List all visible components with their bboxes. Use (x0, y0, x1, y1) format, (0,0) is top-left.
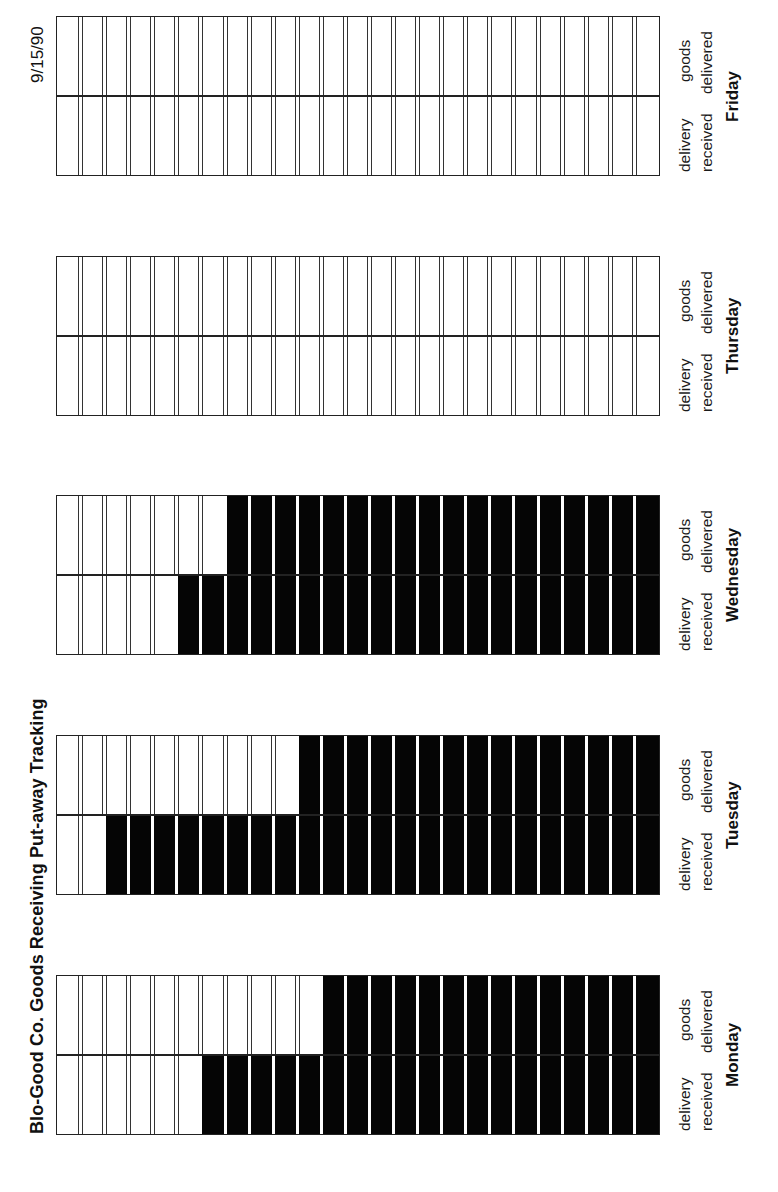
filled-slot (322, 496, 346, 574)
day-name-monday: Monday (723, 1023, 743, 1087)
filled-slot (322, 576, 346, 654)
filled-slot (563, 976, 587, 1054)
filled-slot (466, 816, 490, 894)
filled-slot (153, 816, 177, 894)
filled-slot (514, 736, 538, 814)
filled-slot (611, 816, 635, 894)
filled-slot (587, 496, 611, 574)
filled-slot (635, 496, 659, 574)
filled-slot (611, 736, 635, 814)
filled-slot (466, 1056, 490, 1134)
delivery-label-line1: delivery (676, 1078, 694, 1131)
filled-slot (250, 1056, 274, 1134)
filled-slot (226, 496, 250, 574)
day-name-tuesday: Tuesday (723, 781, 743, 849)
filled-slot (322, 976, 346, 1054)
filled-slot (298, 576, 322, 654)
filled-slot (587, 816, 611, 894)
filled-slot (490, 576, 514, 654)
delivery-received-row (57, 96, 659, 175)
filled-slot (611, 976, 635, 1054)
filled-slot (442, 1056, 466, 1134)
goods-label-line2: delivered (698, 510, 716, 573)
filled-slot (201, 1056, 225, 1134)
filled-slot (322, 816, 346, 894)
filled-slot (539, 576, 563, 654)
empty-slot (81, 816, 105, 894)
filled-slot (490, 496, 514, 574)
filled-slot (514, 576, 538, 654)
filled-slot (105, 816, 129, 894)
filled-slot (322, 1056, 346, 1134)
goods-delivered-row (57, 496, 659, 575)
day-name-thursday: Thursday (723, 298, 743, 375)
goods-delivered-row (57, 736, 659, 815)
empty-slot (635, 337, 659, 415)
goods-label-line2: delivered (698, 31, 716, 94)
filled-slot (514, 496, 538, 574)
empty-slot (635, 257, 659, 335)
filled-slot (177, 816, 201, 894)
delivery-label-line1: delivery (676, 359, 694, 412)
filled-slot (442, 976, 466, 1054)
date-label: 9/15/90 (28, 26, 48, 83)
delivery-received-row (57, 336, 659, 415)
filled-slot (563, 816, 587, 894)
filled-slot (250, 816, 274, 894)
empty-slot (635, 97, 659, 175)
filled-slot (370, 1056, 394, 1134)
goods-label-line2: delivered (698, 990, 716, 1053)
filled-slot (226, 1056, 250, 1134)
day-name-wednesday: Wednesday (723, 528, 743, 622)
filled-slot (514, 816, 538, 894)
filled-slot (635, 736, 659, 814)
filled-slot (346, 576, 370, 654)
filled-slot (635, 976, 659, 1054)
filled-slot (418, 1056, 442, 1134)
filled-slot (274, 576, 298, 654)
filled-slot (346, 736, 370, 814)
filled-slot (587, 976, 611, 1054)
delivery-received-row (57, 1055, 659, 1134)
day-block-wednesday (56, 495, 660, 655)
filled-slot (201, 816, 225, 894)
filled-slot (490, 736, 514, 814)
filled-slot (418, 576, 442, 654)
filled-slot (611, 1056, 635, 1134)
delivery-label-line2: received (698, 832, 716, 891)
filled-slot (250, 576, 274, 654)
filled-slot (539, 1056, 563, 1134)
filled-slot (394, 976, 418, 1054)
filled-slot (490, 976, 514, 1054)
filled-slot (418, 736, 442, 814)
goods-delivered-row (57, 976, 659, 1055)
empty-slot (635, 17, 659, 95)
filled-slot (466, 976, 490, 1054)
empty-slot (298, 976, 322, 1054)
filled-slot (370, 736, 394, 814)
delivery-received-row (57, 815, 659, 894)
filled-slot (635, 1056, 659, 1134)
filled-slot (322, 736, 346, 814)
filled-slot (394, 496, 418, 574)
filled-slot (298, 1056, 322, 1134)
filled-slot (370, 816, 394, 894)
filled-slot (226, 576, 250, 654)
filled-slot (587, 1056, 611, 1134)
filled-slot (250, 496, 274, 574)
filled-slot (226, 816, 250, 894)
filled-slot (394, 1056, 418, 1134)
filled-slot (514, 976, 538, 1054)
filled-slot (201, 576, 225, 654)
goods-delivered-row (57, 17, 659, 96)
filled-slot (611, 576, 635, 654)
delivery-label-line2: received (698, 1072, 716, 1131)
goods-label-line2: delivered (698, 750, 716, 813)
filled-slot (539, 496, 563, 574)
filled-slot (563, 496, 587, 574)
filled-slot (298, 816, 322, 894)
filled-slot (346, 816, 370, 894)
empty-slot (153, 576, 177, 654)
filled-slot (298, 736, 322, 814)
filled-slot (394, 816, 418, 894)
